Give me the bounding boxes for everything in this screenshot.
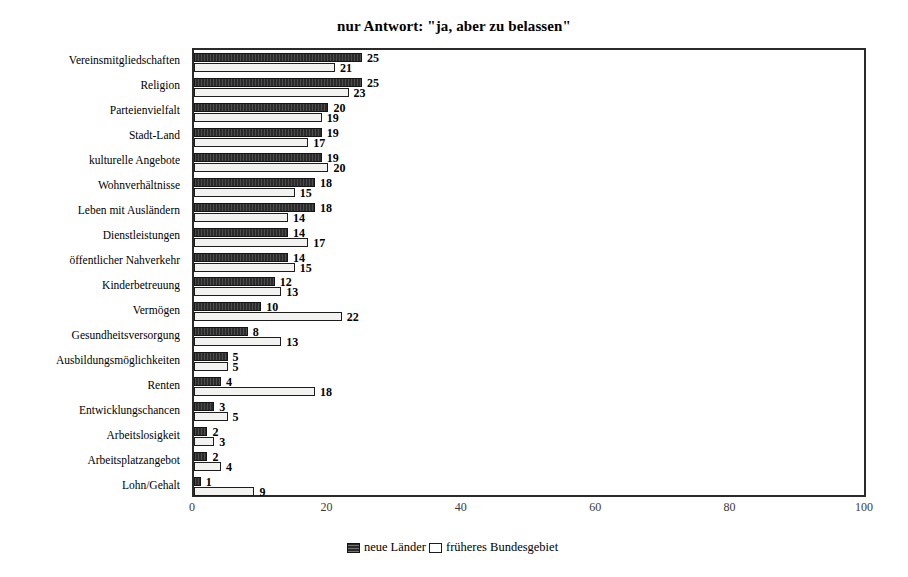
bar-frueheres-bundesgebiet (194, 138, 308, 147)
bar-value-label: 17 (313, 137, 325, 149)
category-label: Religion (0, 79, 186, 91)
x-tick-label: 80 (724, 500, 736, 514)
legend-swatch-light-icon (429, 543, 442, 553)
category-label: Stadt-Land (0, 129, 186, 141)
bar-value-label: 5 (233, 361, 239, 373)
bar-frueheres-bundesgebiet (194, 487, 254, 496)
bar-frueheres-bundesgebiet (194, 412, 228, 421)
plot-area: 2521252320191917192018151814141714151213… (192, 48, 866, 497)
category-label: Vermögen (0, 304, 186, 316)
bar-frueheres-bundesgebiet (194, 362, 228, 371)
category-label: Entwicklungschancen (0, 404, 186, 416)
category-label: Gesundheitsversorgung (0, 329, 186, 341)
bar-value-label: 15 (300, 187, 312, 199)
bar-value-label: 3 (219, 436, 225, 448)
bar-value-label: 20 (333, 162, 345, 174)
bar-frueheres-bundesgebiet (194, 238, 308, 247)
bar-frueheres-bundesgebiet (194, 287, 281, 296)
bar-frueheres-bundesgebiet (194, 188, 295, 197)
bar-neue-laender (194, 452, 207, 461)
category-label: Wohnverhältnisse (0, 179, 186, 191)
x-tick-label: 20 (320, 500, 332, 514)
category-label: kulturelle Angebote (0, 154, 186, 166)
x-tick-label: 40 (455, 500, 467, 514)
category-label: Dienstleistungen (0, 229, 186, 241)
bar-neue-laender (194, 178, 315, 187)
category-label: Arbeitsplatzangebot (0, 454, 186, 466)
category-axis: VereinsmitgliedschaftenReligionParteienv… (0, 48, 186, 497)
bar-neue-laender (194, 302, 261, 311)
bar-value-label: 4 (226, 461, 232, 473)
bar-value-label: 13 (286, 336, 298, 348)
bar-neue-laender (194, 327, 248, 336)
bar-frueheres-bundesgebiet (194, 437, 214, 446)
bar-neue-laender (194, 253, 288, 262)
bar-value-label: 13 (286, 286, 298, 298)
bar-frueheres-bundesgebiet (194, 387, 315, 396)
bar-value-label: 22 (347, 311, 359, 323)
bar-value-label: 18 (320, 202, 332, 214)
legend-swatch-dark-icon (347, 543, 360, 553)
category-label: Ausbildungsmöglichkeiten (0, 354, 186, 366)
bar-neue-laender (194, 103, 328, 112)
bar-value-label: 21 (340, 62, 352, 74)
bar-neue-laender (194, 78, 362, 87)
category-label: Renten (0, 379, 186, 391)
bar-value-label: 9 (259, 486, 265, 498)
category-label: Lohn/Gehalt (0, 479, 186, 491)
bar-value-label: 15 (300, 262, 312, 274)
bar-value-label: 18 (320, 386, 332, 398)
bar-frueheres-bundesgebiet (194, 163, 328, 172)
bar-value-label: 25 (367, 52, 379, 64)
category-label: Parteienvielfalt (0, 104, 186, 116)
bar-value-label: 19 (327, 112, 339, 124)
bar-neue-laender (194, 277, 275, 286)
bar-neue-laender (194, 377, 221, 386)
bar-frueheres-bundesgebiet (194, 337, 281, 346)
bar-neue-laender (194, 228, 288, 237)
category-label: Leben mit Ausländern (0, 204, 186, 216)
bar-value-label: 17 (313, 237, 325, 249)
bar-value-label: 14 (293, 212, 305, 224)
bar-frueheres-bundesgebiet (194, 462, 221, 471)
bar-neue-laender (194, 128, 322, 137)
chart-title: nur Antwort: "ja, aber zu belassen" (0, 18, 908, 35)
chart-legend: neue Länderfrüheres Bundesgebiet (0, 540, 908, 555)
legend-label: früheres Bundesgebiet (446, 540, 558, 555)
bar-frueheres-bundesgebiet (194, 88, 349, 97)
x-tick-label: 100 (855, 500, 873, 514)
legend-label: neue Länder (364, 540, 426, 555)
x-tick-label: 60 (589, 500, 601, 514)
legend-item: früheres Bundesgebiet (429, 540, 561, 555)
x-axis: 020406080100 (192, 500, 866, 520)
x-tick-label: 0 (189, 500, 195, 514)
category-label: Kinderbetreuung (0, 279, 186, 291)
bar-neue-laender (194, 53, 362, 62)
bar-value-label: 5 (233, 411, 239, 423)
bar-frueheres-bundesgebiet (194, 312, 342, 321)
bar-frueheres-bundesgebiet (194, 63, 335, 72)
bar-frueheres-bundesgebiet (194, 263, 295, 272)
legend-item: neue Länder (347, 540, 429, 555)
bar-chart: nur Antwort: "ja, aber zu belassen" Vere… (0, 0, 908, 577)
bar-neue-laender (194, 402, 214, 411)
category-label: öffentlicher Nahverkehr (0, 254, 186, 266)
bar-value-label: 23 (354, 87, 366, 99)
bar-value-label: 25 (367, 77, 379, 89)
bar-neue-laender (194, 352, 228, 361)
bar-neue-laender (194, 427, 207, 436)
bar-neue-laender (194, 477, 201, 486)
bar-value-label: 19 (327, 127, 339, 139)
bar-neue-laender (194, 153, 322, 162)
bar-frueheres-bundesgebiet (194, 213, 288, 222)
category-label: Arbeitslosigkeit (0, 429, 186, 441)
category-label: Vereinsmitgliedschaften (0, 54, 186, 66)
bar-frueheres-bundesgebiet (194, 113, 322, 122)
bar-value-label: 18 (320, 177, 332, 189)
